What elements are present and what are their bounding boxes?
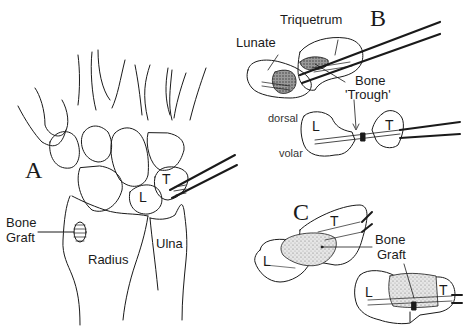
label-radius: Radius: [88, 253, 128, 267]
label-lunate-c-top: L: [263, 254, 271, 268]
wrist-arthrodesis-illustration: [0, 0, 469, 330]
label-lunate-c-bottom: L: [365, 285, 373, 299]
label-ulna: Ulna: [156, 237, 183, 251]
panel-a-wrist-drawing: [18, 50, 237, 325]
label-triquetrum-c-top: T: [330, 214, 339, 228]
label-triquetrum-c-bottom: T: [439, 283, 448, 297]
panel-c-top-drawing: [255, 205, 372, 282]
label-bone-graft-c-line1: Bone: [375, 233, 405, 247]
label-bone-graft-a-line1: Bone: [6, 216, 36, 230]
label-volar: volar: [279, 147, 303, 159]
label-triquetrum: Triquetrum: [280, 13, 342, 27]
label-lunate: Lunate: [236, 36, 276, 50]
label-lunate-b: L: [312, 119, 320, 133]
label-bone-trough-line1: Bone: [355, 74, 385, 88]
label-bone-graft-c-line2: Graft: [377, 248, 406, 262]
panel-label-a: A: [25, 158, 42, 182]
panel-label-b: B: [370, 6, 386, 30]
panel-b-top-drawing: [247, 22, 440, 98]
label-bone-trough-line2: 'Trough': [345, 88, 391, 102]
panel-b-bottom-drawing: [301, 100, 460, 156]
label-bone-graft-a-line2: Graft: [6, 231, 35, 245]
panel-label-c: C: [293, 200, 309, 224]
label-dorsal: dorsal: [268, 112, 298, 124]
label-triquetrum-a: T: [162, 172, 171, 186]
label-lunate-a: L: [139, 190, 147, 204]
label-triquetrum-b: T: [385, 118, 394, 132]
